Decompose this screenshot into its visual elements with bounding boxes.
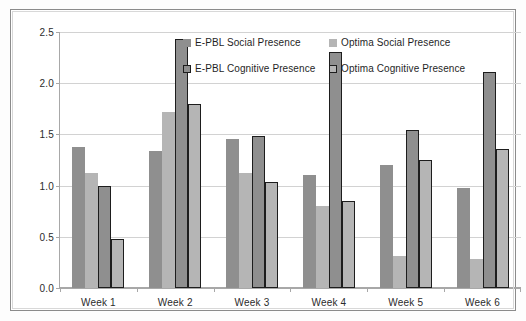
bar (85, 173, 98, 288)
legend-label: E-PBL Social Presence (195, 37, 301, 48)
legend-swatch-icon (183, 65, 191, 73)
bar (329, 52, 342, 288)
x-axis-tick-label: Week 6 (444, 297, 521, 308)
legend-label: Optima Cognitive Presence (341, 63, 465, 74)
x-axis-tick-label: Week 2 (137, 297, 214, 308)
bar (111, 239, 124, 288)
y-axis-tick-label: 1.0 (39, 180, 54, 191)
bar (470, 259, 483, 288)
bar (226, 139, 239, 289)
chart-legend: E-PBL Social PresenceOptima Social Prese… (183, 37, 479, 74)
y-axis-tick-label: 2.5 (39, 27, 54, 38)
grouped-bar-chart: 0.00.51.01.52.02.5 Week 1Week 2Week 3Wee… (0, 0, 526, 321)
bar (252, 136, 265, 288)
bar (175, 39, 188, 288)
bar-group: Week 1 (60, 32, 137, 288)
x-axis-tick-mark (60, 288, 61, 292)
bar (265, 182, 278, 288)
legend-entry: E-PBL Cognitive Presence (183, 63, 329, 74)
y-axis-tick-label: 1.5 (39, 129, 54, 140)
legend-swatch-icon (329, 65, 337, 73)
bar (316, 206, 329, 288)
bar (98, 186, 111, 288)
bar (483, 72, 496, 288)
x-axis-tick-mark (444, 288, 445, 292)
x-axis-tick-label: Week 1 (60, 297, 137, 308)
y-axis-tick-label: 0.0 (39, 283, 54, 294)
y-axis-tick-label: 0.5 (39, 231, 54, 242)
bar (393, 256, 406, 288)
x-axis-tick-mark (214, 288, 215, 292)
x-axis-tick-label: Week 5 (367, 297, 444, 308)
legend-entry: Optima Social Presence (329, 37, 479, 48)
legend-swatch-icon (183, 39, 191, 47)
legend-entry: E-PBL Social Presence (183, 37, 329, 48)
bar (406, 130, 419, 288)
bar (162, 112, 175, 288)
x-axis-tick-mark (520, 288, 521, 292)
bar (72, 147, 85, 288)
bar (496, 149, 509, 288)
bar (380, 165, 393, 288)
bar (342, 201, 355, 288)
legend-label: E-PBL Cognitive Presence (195, 63, 315, 74)
bar (239, 173, 252, 288)
bar (149, 151, 162, 288)
y-axis-tick-label: 2.0 (39, 78, 54, 89)
x-axis-tick-label: Week 3 (214, 297, 291, 308)
bar (457, 188, 470, 288)
x-axis-tick-mark (290, 288, 291, 292)
x-axis-tick-label: Week 4 (290, 297, 367, 308)
bar (188, 104, 201, 288)
bar (303, 175, 316, 288)
x-axis-tick-mark (367, 288, 368, 292)
chart-frame: 0.00.51.01.52.02.5 Week 1Week 2Week 3Wee… (10, 9, 516, 311)
legend-entry: Optima Cognitive Presence (329, 63, 479, 74)
x-axis-tick-mark (137, 288, 138, 292)
bar (419, 160, 432, 288)
legend-swatch-icon (329, 39, 337, 47)
legend-label: Optima Social Presence (341, 37, 450, 48)
